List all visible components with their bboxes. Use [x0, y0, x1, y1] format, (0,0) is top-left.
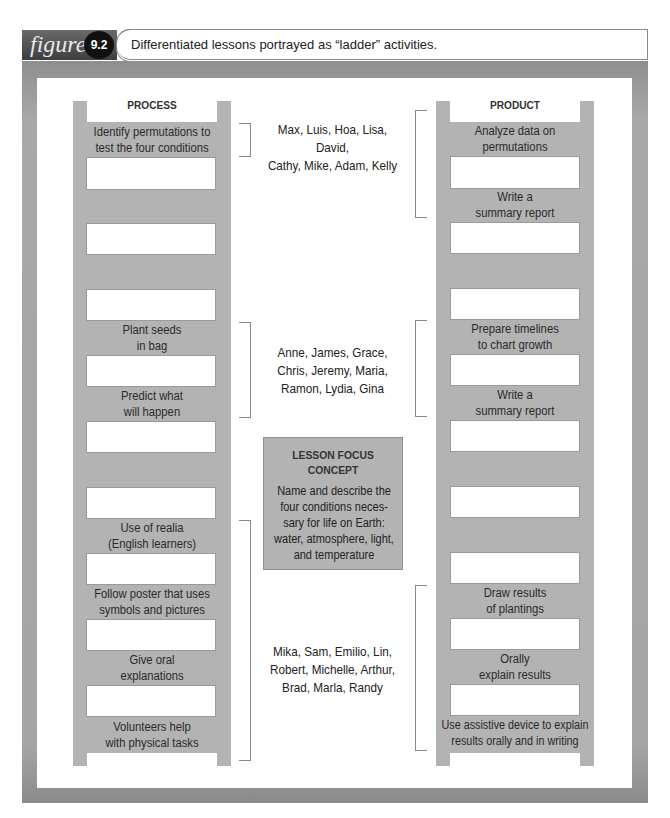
process-step: Give oral explanations	[82, 652, 222, 684]
student-group-3: Mika, Sam, Emilio, Lin, Robert, Michelle…	[263, 643, 403, 697]
figure-number-badge: 9.2	[84, 31, 114, 59]
process-rung	[86, 685, 216, 717]
process-rung	[86, 157, 216, 190]
group-2-right-bracket	[415, 320, 427, 417]
product-step: Orally explain results	[445, 651, 585, 683]
process-rung	[86, 487, 216, 519]
product-rung	[450, 486, 580, 518]
product-ladder-bottom-gap	[450, 753, 580, 766]
process-rung	[86, 289, 216, 321]
group-3-right-bracket	[415, 585, 427, 751]
lesson-focus-box: LESSON FOCUS CONCEPT Name and describe t…	[263, 437, 403, 570]
process-step: Use of realia (English learners)	[82, 520, 222, 552]
product-rung	[450, 354, 580, 386]
group-1-right-bracket	[415, 110, 427, 218]
process-rung	[86, 355, 216, 387]
process-step: Identify permutations to test the four c…	[82, 124, 222, 156]
product-step: Analyze data on permutations	[445, 123, 585, 155]
process-ladder-bottom-gap	[87, 753, 217, 766]
process-step: Follow poster that uses symbols and pict…	[82, 586, 222, 618]
process-step: Predict what will happen	[82, 388, 222, 420]
product-step: Prepare timelines to chart growth	[445, 321, 585, 353]
process-rung	[86, 553, 216, 585]
product-rung	[450, 156, 580, 189]
product-rung	[450, 222, 580, 254]
lesson-focus-title: LESSON FOCUS CONCEPT	[271, 448, 395, 478]
product-rung	[450, 618, 580, 650]
product-rung	[450, 288, 580, 320]
product-rung	[450, 552, 580, 584]
process-step: Plant seeds in bag	[82, 322, 222, 354]
group-1-left-bracket	[239, 123, 251, 157]
product-ladder-title: PRODUCT	[458, 99, 572, 111]
lesson-focus-description: Name and describe the four conditions ne…	[269, 483, 399, 563]
student-group-2: Anne, James, Grace, Chris, Jeremy, Maria…	[263, 344, 403, 398]
process-rung	[86, 619, 216, 651]
figure-word: figure	[30, 29, 86, 59]
product-step: Use assistive device to explain results …	[440, 717, 589, 749]
product-step: Write a summary report	[445, 189, 585, 221]
group-2-left-bracket	[239, 322, 251, 418]
product-rung	[450, 684, 580, 716]
product-step: Draw results of plantings	[445, 585, 585, 617]
product-rung	[450, 420, 580, 452]
figure-caption: Differentiated lessons portrayed as “lad…	[131, 29, 437, 60]
group-3-left-bracket	[239, 520, 251, 761]
process-rung	[86, 223, 216, 255]
product-step: Write a summary report	[445, 387, 585, 419]
student-group-1: Max, Luis, Hoa, Lisa, David, Cathy, Mike…	[263, 121, 403, 175]
process-rung	[86, 421, 216, 453]
process-step: Volunteers help with physical tasks	[82, 719, 222, 751]
process-ladder-title: PROCESS	[95, 99, 209, 111]
